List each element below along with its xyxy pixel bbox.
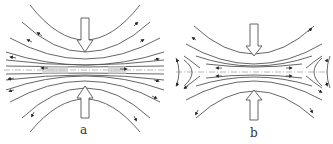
compression-arrow-top-a bbox=[77, 18, 93, 52]
panel-label-a: a bbox=[80, 123, 87, 137]
shaded-region-left bbox=[42, 66, 68, 74]
panel-label-b: b bbox=[250, 126, 258, 140]
compression-arrow-bottom-b bbox=[246, 90, 262, 120]
compression-arrow-bottom-a bbox=[77, 86, 93, 118]
panel-b bbox=[176, 24, 330, 120]
compression-arrow-top-b bbox=[246, 24, 262, 56]
shaded-region-right bbox=[108, 66, 126, 74]
field-line-diagram: a bbox=[0, 0, 333, 144]
panel-a bbox=[4, 5, 166, 132]
